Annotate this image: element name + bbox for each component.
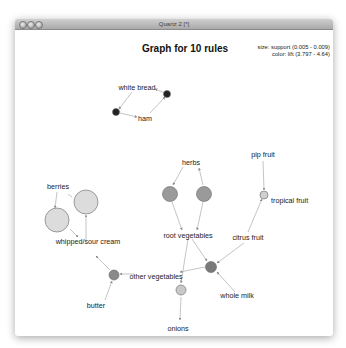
rule-node-r8[interactable]	[109, 270, 119, 280]
item-label: root vegetables	[163, 231, 213, 240]
rule-node-r6[interactable]	[45, 208, 69, 232]
rule-node-r4[interactable]	[197, 187, 212, 202]
rule-node-r2[interactable]	[113, 109, 120, 116]
item-label: butter	[87, 301, 106, 310]
item-label: pip fruit	[251, 150, 275, 159]
item-label: citrus fruit	[232, 233, 263, 242]
item-label: ham	[138, 114, 152, 123]
rule-node-r10[interactable]	[206, 262, 217, 273]
item-label: whipped/sour cream	[55, 237, 121, 246]
rules-graph: Graph for 10 rules size: support (0.005 …	[0, 0, 346, 348]
rule-node-r3[interactable]	[163, 187, 178, 202]
rule-nodes	[45, 91, 268, 296]
rule-node-r7[interactable]	[74, 190, 98, 214]
rule-node-r5[interactable]	[260, 191, 268, 199]
rule-node-r9[interactable]	[176, 285, 186, 295]
graph-title: Graph for 10 rules	[142, 43, 229, 54]
item-label: other vegetables	[129, 272, 183, 281]
rule-node-r1[interactable]	[164, 91, 171, 98]
item-label: berries	[47, 182, 69, 191]
item-label: white bread	[117, 83, 155, 92]
legend-size: size: support (0.005 - 0.009)	[257, 44, 330, 50]
item-label: tropical fruit	[271, 196, 308, 205]
item-label: whole milk	[219, 291, 254, 300]
item-label: onions	[167, 324, 189, 333]
legend-color: color: lift (3.797 - 4.64)	[272, 51, 330, 57]
item-label: herbs	[182, 158, 200, 167]
